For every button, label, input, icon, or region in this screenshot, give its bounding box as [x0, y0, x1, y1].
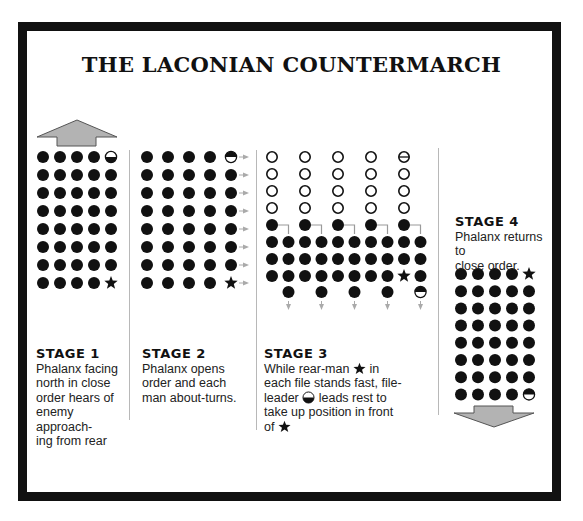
soldier-dot — [37, 223, 49, 235]
down-arrow-icon — [352, 304, 357, 310]
stage-2-heading: STAGE 2 — [142, 347, 252, 362]
soldier-dot — [225, 205, 237, 217]
soldier-dot — [71, 187, 83, 199]
soldier-dot — [141, 277, 153, 289]
soldier-dot — [54, 241, 66, 253]
soldier-dot — [71, 259, 83, 271]
soldier-dot — [162, 151, 174, 163]
soldier-dot — [88, 187, 100, 199]
stage-1-line: Phalanx facing — [36, 362, 118, 376]
stage-4-formation — [455, 267, 536, 400]
stage-1-line: enemy approach- — [36, 405, 92, 434]
stage-3-line: in — [366, 362, 379, 376]
right-arrow-icon — [243, 281, 249, 286]
vacated-position-circle — [366, 169, 376, 179]
soldier-dot — [162, 205, 174, 217]
soldier-dot — [71, 277, 83, 289]
soldier-dot — [472, 302, 484, 314]
stage-4-heading: STAGE 4 — [455, 215, 555, 230]
soldier-dot — [225, 187, 237, 199]
vacated-position-circle — [300, 203, 310, 213]
soldier-dot — [162, 169, 174, 181]
soldier-dot — [382, 253, 394, 265]
file-leader-icon — [105, 151, 116, 162]
soldier-dot — [299, 253, 311, 265]
soldier-dot — [455, 354, 467, 366]
soldier-dot — [37, 277, 49, 289]
soldier-dot — [37, 259, 49, 271]
soldier-dot — [455, 371, 467, 383]
stage-3-line: take up position in front — [264, 405, 393, 419]
soldier-dot — [162, 241, 174, 253]
vacated-position-circle — [366, 186, 376, 196]
soldier-dot — [266, 236, 278, 248]
soldier-dot — [489, 337, 501, 349]
file-leader-icon — [523, 389, 534, 400]
vacated-position-circle — [333, 169, 343, 179]
soldier-dot — [472, 320, 484, 332]
soldier-dot — [71, 223, 83, 235]
path-connector — [377, 225, 388, 234]
stage-2-line: Phalanx opens — [142, 362, 225, 376]
right-arrow-icon — [243, 209, 249, 214]
soldier-dot — [489, 354, 501, 366]
soldier-dot — [365, 236, 377, 248]
vacated-position-circle — [267, 186, 277, 196]
soldier-dot — [54, 259, 66, 271]
right-arrow-icon — [243, 245, 249, 250]
soldier-dot — [489, 320, 501, 332]
right-arrow-icon — [243, 155, 249, 160]
soldier-dot — [332, 270, 344, 282]
soldier-dot — [523, 354, 535, 366]
file-leader-icon — [415, 286, 426, 297]
stage-2-line: man about-turns. — [142, 391, 237, 405]
soldier-dot — [266, 219, 278, 231]
vacated-position-circle — [366, 152, 376, 162]
soldier-dot — [472, 285, 484, 297]
stage-2-text: Phalanx opens order and each man about-t… — [142, 362, 237, 405]
soldier-dot — [266, 270, 278, 282]
stage-3-formation — [266, 152, 427, 310]
soldier-dot — [489, 285, 501, 297]
soldier-dot — [506, 371, 518, 383]
soldier-dot — [71, 151, 83, 163]
soldier-dot — [141, 169, 153, 181]
soldier-dot — [54, 187, 66, 199]
star-icon — [397, 269, 410, 282]
soldier-dot — [141, 223, 153, 235]
vacated-position-circle — [333, 203, 343, 213]
soldier-dot — [183, 187, 195, 199]
soldier-dot — [283, 236, 295, 248]
soldier-dot — [523, 371, 535, 383]
soldier-dot — [398, 236, 410, 248]
soldier-dot — [523, 320, 535, 332]
stage-3-line: leads rest to — [315, 391, 387, 405]
soldier-dot — [382, 270, 394, 282]
soldier-dot — [105, 187, 117, 199]
vacated-position-circle — [333, 152, 343, 162]
right-arrow-icon — [243, 263, 249, 268]
file-leader-icon — [302, 391, 315, 404]
soldier-dot — [415, 253, 427, 265]
soldier-dot — [506, 320, 518, 332]
soldier-dot — [489, 302, 501, 314]
vacated-position-circle — [333, 186, 343, 196]
path-connector — [311, 225, 322, 234]
soldier-dot — [316, 270, 328, 282]
vacated-position-circle — [300, 169, 310, 179]
star-icon — [353, 362, 366, 375]
stage-1-line: ing from rear — [36, 434, 107, 448]
vacated-position-circle — [267, 203, 277, 213]
soldier-dot — [455, 285, 467, 297]
file-leader-icon — [225, 151, 236, 162]
stage-4-text: Phalanx returns to close order. — [455, 230, 543, 273]
soldier-dot — [349, 236, 361, 248]
soldier-dot — [37, 187, 49, 199]
stage-3-line: of — [264, 420, 274, 434]
soldier-dot — [225, 169, 237, 181]
soldier-dot — [54, 277, 66, 289]
vacated-position-circle — [399, 203, 409, 213]
stage-1-line: order hears of — [36, 391, 114, 405]
soldier-dot — [472, 337, 484, 349]
soldier-dot — [349, 286, 361, 298]
